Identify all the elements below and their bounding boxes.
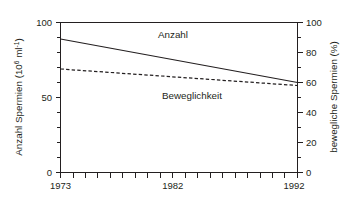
svg-text:Anzahl Spermien (106 ml-1): Anzahl Spermien (106 ml-1) bbox=[13, 38, 24, 155]
x-tick-label-1982: 1982 bbox=[162, 180, 183, 191]
left-axis-title-mid: ml bbox=[13, 47, 24, 60]
right-tick-label-20: 20 bbox=[306, 137, 317, 148]
series-line-anzahl bbox=[61, 39, 298, 83]
right-tick-label-100: 100 bbox=[306, 17, 322, 28]
left-axis-title-main: Anzahl Spermien (10 bbox=[13, 64, 24, 156]
right-axis-ticks bbox=[298, 23, 303, 173]
left-axis-title: Anzahl Spermien (106 ml-1) bbox=[13, 38, 24, 155]
left-axis-title-end: ) bbox=[13, 38, 24, 41]
left-tick-label-100: 100 bbox=[36, 17, 52, 28]
left-tick-label-0: 0 bbox=[47, 167, 52, 178]
left-axis-ticks bbox=[56, 23, 61, 173]
right-axis-title: bewegliche Spermien (%) bbox=[328, 41, 339, 153]
right-tick-label-40: 40 bbox=[306, 107, 317, 118]
series-line-beweglichkeit bbox=[61, 69, 298, 86]
x-tick-label-1973: 1973 bbox=[50, 180, 71, 191]
right-tick-label-60: 60 bbox=[306, 77, 317, 88]
series-annotation-anzahl: Anzahl bbox=[158, 29, 188, 40]
right-tick-label-80: 80 bbox=[306, 47, 317, 58]
right-tick-label-0: 0 bbox=[306, 167, 311, 178]
series-annotation-beweglichkeit: Beweglichkeit bbox=[162, 90, 222, 101]
line-chart-svg: 100 50 0 100 80 60 40 20 0 bbox=[0, 0, 354, 202]
x-tick-label-1992: 1992 bbox=[283, 180, 304, 191]
x-axis-ticks bbox=[61, 173, 298, 178]
chart-figure: 100 50 0 100 80 60 40 20 0 bbox=[0, 0, 354, 202]
left-tick-label-50: 50 bbox=[41, 92, 52, 103]
